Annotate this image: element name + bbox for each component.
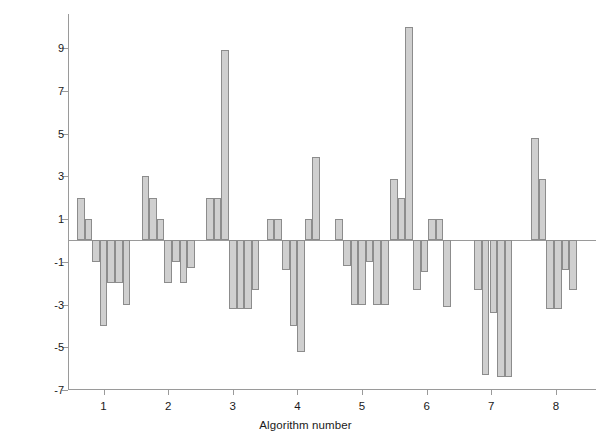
bar	[77, 198, 85, 241]
bar	[244, 240, 252, 308]
bar	[531, 138, 539, 241]
bar	[172, 240, 180, 261]
y-tick-label: -3	[54, 299, 64, 311]
bar	[115, 240, 123, 283]
bar	[180, 240, 188, 283]
bar	[421, 240, 429, 272]
y-tick-label: 9	[58, 42, 64, 54]
y-axis-line	[68, 14, 69, 390]
bar	[100, 240, 108, 325]
bar	[390, 179, 398, 241]
bar	[107, 240, 115, 283]
bar	[428, 219, 436, 240]
bar	[497, 240, 505, 377]
y-tick-label: -1	[54, 256, 64, 268]
bar	[164, 240, 172, 283]
bar	[505, 240, 513, 377]
x-tick-label: 3	[230, 400, 236, 412]
bar	[381, 240, 389, 304]
bar	[221, 50, 229, 240]
x-tick-label: 6	[423, 400, 429, 412]
bar	[562, 240, 570, 270]
bar	[149, 198, 157, 241]
bar	[546, 240, 554, 308]
x-tick-label: 2	[165, 400, 171, 412]
bar	[206, 198, 214, 241]
x-tick-mark	[362, 390, 363, 395]
bar	[554, 240, 562, 308]
bar	[290, 240, 298, 325]
x-tick-label: 8	[553, 400, 559, 412]
bar	[436, 219, 444, 240]
x-tick-label: 1	[100, 400, 106, 412]
chart-container: Postmortem interval error (hours) 97531-…	[0, 0, 611, 433]
x-tick-mark	[104, 390, 105, 395]
y-axis-title: Postmortem interval error (hours)	[2, 0, 24, 22]
x-tick-mark	[427, 390, 428, 395]
y-tick-label: 7	[58, 85, 64, 97]
y-tick-label: -7	[54, 384, 64, 396]
bar	[539, 179, 547, 241]
x-tick-label: 7	[488, 400, 494, 412]
bar	[229, 240, 237, 308]
x-tick-mark	[233, 390, 234, 395]
x-tick-label: 4	[294, 400, 300, 412]
bar	[237, 240, 245, 308]
bar	[474, 240, 482, 289]
bar	[335, 219, 343, 240]
y-tick-label: 3	[58, 170, 64, 182]
bar	[405, 27, 413, 241]
bar	[142, 176, 150, 240]
zero-reference-line	[68, 240, 596, 241]
bar	[366, 240, 374, 261]
x-axis-line	[68, 389, 596, 390]
bar	[373, 240, 381, 304]
bar	[358, 240, 366, 304]
bar	[482, 240, 490, 375]
bar	[282, 240, 290, 270]
bar	[214, 198, 222, 241]
bar	[312, 157, 320, 240]
bar	[297, 240, 305, 351]
y-tick-label: 5	[58, 128, 64, 140]
x-tick-mark	[491, 390, 492, 395]
bar	[413, 240, 421, 289]
x-tick-mark	[168, 390, 169, 395]
bar	[92, 240, 100, 261]
x-tick-mark	[556, 390, 557, 395]
bar	[490, 240, 498, 313]
x-axis-title: Algorithm number	[0, 419, 611, 431]
bar	[569, 240, 577, 289]
bar	[274, 219, 282, 240]
bar	[443, 240, 451, 306]
plot-area: 97531-1-3-5-7 12345678	[68, 14, 596, 390]
bar	[123, 240, 131, 304]
bar	[187, 240, 195, 268]
bar	[85, 219, 93, 240]
bar	[351, 240, 359, 304]
bar	[267, 219, 275, 240]
x-tick-label: 5	[359, 400, 365, 412]
y-tick-label: 1	[58, 213, 64, 225]
bar	[157, 219, 165, 240]
bar	[343, 240, 351, 266]
bar	[305, 219, 313, 240]
y-tick-label: -5	[54, 341, 64, 353]
bar	[252, 240, 260, 289]
x-tick-mark	[297, 390, 298, 395]
bar	[398, 198, 406, 241]
y-axis-title-text: Postmortem interval error (hours)	[2, 0, 24, 22]
